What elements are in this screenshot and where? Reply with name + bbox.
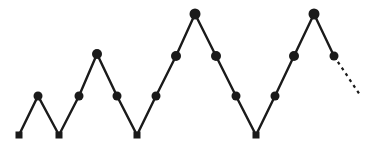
- marker-circle: [34, 92, 43, 101]
- marker-square: [56, 132, 63, 139]
- zigzag-chart-svg: [0, 0, 369, 150]
- marker-circle: [271, 92, 280, 101]
- marker-circle: [289, 51, 299, 61]
- marker-circle: [211, 51, 221, 61]
- marker-circle: [232, 92, 241, 101]
- chart-figure: [0, 0, 369, 150]
- marker-circle: [152, 92, 161, 101]
- marker-circle: [113, 92, 122, 101]
- marker-square: [16, 132, 23, 139]
- marker-square: [134, 132, 141, 139]
- marker-circle: [75, 92, 84, 101]
- marker-circle: [171, 51, 181, 61]
- marker-circle: [190, 9, 201, 20]
- marker-square: [253, 132, 260, 139]
- marker-circle: [330, 52, 339, 61]
- marker-circle: [309, 9, 320, 20]
- marker-circle: [92, 49, 102, 59]
